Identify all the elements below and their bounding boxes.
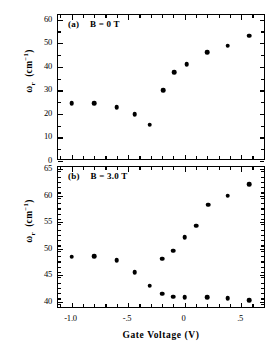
y-minor-tick-right [261, 198, 264, 199]
y-minor-tick [58, 245, 61, 246]
y-minor-tick-right [261, 235, 264, 236]
x-minor-tick [94, 304, 95, 307]
y-minor-tick-right [261, 240, 264, 241]
x-major-tick-top [128, 15, 129, 20]
y-minor-tick [58, 203, 61, 204]
y-tick-label: 50 [22, 37, 52, 47]
x-minor-tick [207, 156, 208, 159]
panel-a-plot-frame: (a)B = 0 T [57, 14, 265, 160]
y-tick-label: 55 [22, 216, 52, 226]
x-axis-label: Gate Voltage (V) [57, 330, 265, 340]
data-point [69, 101, 74, 106]
x-minor-tick [219, 156, 220, 159]
x-minor-tick [230, 156, 231, 159]
y-minor-tick-right [261, 31, 264, 32]
data-point [205, 295, 210, 300]
x-minor-tick-top [60, 15, 61, 18]
panel-b-condition: B = 3.0 T [91, 171, 128, 181]
x-minor-tick [105, 156, 106, 159]
panel-b-tag: (b) [68, 171, 80, 181]
x-minor-tick [105, 304, 106, 307]
y-major-tick [58, 114, 63, 115]
x-minor-tick [60, 156, 61, 159]
y-minor-tick [58, 283, 61, 284]
y-minor-tick-right [261, 171, 264, 172]
x-minor-tick-top [264, 167, 265, 170]
y-major-tick-right [260, 67, 265, 68]
x-minor-tick-top [162, 167, 163, 170]
data-point [247, 182, 252, 187]
y-tick-label: 60 [22, 14, 52, 24]
data-point [161, 88, 166, 93]
y-minor-tick-right [261, 288, 264, 289]
x-tick-label: -.5 [107, 313, 147, 323]
x-minor-tick-top [219, 167, 220, 170]
x-major-tick-top [241, 15, 242, 20]
y-minor-tick-right [261, 187, 264, 188]
data-point [182, 235, 187, 240]
y-minor-tick-right [261, 245, 264, 246]
y-minor-tick-right [261, 251, 264, 252]
x-minor-tick-top [60, 167, 61, 170]
x-minor-tick [94, 156, 95, 159]
y-minor-tick [58, 240, 61, 241]
y-tick-label: 65 [22, 163, 52, 173]
y-minor-tick [58, 171, 61, 172]
panel-a-plot-area [58, 15, 264, 159]
y-minor-tick [58, 267, 61, 268]
y-major-tick-right [260, 114, 265, 115]
x-minor-tick [173, 156, 174, 159]
y-major-tick-right [260, 275, 265, 276]
x-minor-tick-top [264, 15, 265, 18]
x-minor-tick [117, 156, 118, 159]
y-minor-tick-right [261, 261, 264, 262]
x-minor-tick [219, 304, 220, 307]
y-minor-tick [58, 192, 61, 193]
y-major-tick-right [260, 222, 265, 223]
y-minor-tick-right [261, 224, 264, 225]
y-minor-tick [58, 214, 61, 215]
y-minor-tick-right [261, 283, 264, 284]
figure-root: (a)B = 0 T ωr (cm−1) (b)B = 3.0 T ωr (cm… [0, 0, 276, 348]
y-tick-label: 40 [22, 61, 52, 71]
x-minor-tick-top [252, 15, 253, 18]
data-point [225, 193, 230, 198]
y-minor-tick [58, 277, 61, 278]
y-major-tick [58, 20, 63, 21]
y-minor-tick [58, 293, 61, 294]
data-point [133, 270, 138, 275]
x-major-tick [185, 303, 186, 308]
x-minor-tick-top [117, 167, 118, 170]
x-minor-tick [230, 304, 231, 307]
y-major-tick [58, 137, 63, 138]
x-major-tick-top [128, 167, 129, 172]
y-major-tick-right [260, 137, 265, 138]
x-minor-tick [196, 156, 197, 159]
y-minor-tick-right [261, 298, 264, 299]
data-point [182, 295, 187, 300]
x-minor-tick-top [252, 167, 253, 170]
y-minor-tick [58, 79, 61, 80]
y-minor-tick-right [261, 219, 264, 220]
x-tick-label: -1.0 [51, 313, 91, 323]
y-tick-label: 45 [22, 269, 52, 279]
x-minor-tick-top [196, 167, 197, 170]
data-point [114, 258, 119, 263]
x-minor-tick-top [230, 15, 231, 18]
y-major-tick [58, 249, 63, 250]
x-minor-tick-top [173, 15, 174, 18]
data-point [171, 295, 176, 300]
x-minor-tick [139, 304, 140, 307]
x-tick-label: 0 [164, 313, 204, 323]
x-minor-tick [252, 304, 253, 307]
x-minor-tick [173, 304, 174, 307]
panel-b-plot-area [58, 167, 264, 307]
y-major-tick [58, 161, 63, 162]
data-point [114, 105, 119, 110]
x-minor-tick-top [219, 15, 220, 18]
y-minor-tick [58, 149, 61, 150]
y-minor-tick [58, 187, 61, 188]
x-minor-tick-top [162, 15, 163, 18]
y-major-tick-right [260, 43, 265, 44]
x-minor-tick-top [139, 15, 140, 18]
